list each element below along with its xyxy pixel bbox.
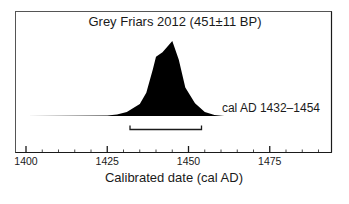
radiocarbon-calibration-chart: Grey Friars 2012 (451±11 BP) cal AD 1432… bbox=[0, 0, 349, 204]
tick-label: 1475 bbox=[258, 155, 282, 167]
range-annotation: cal AD 1432–1454 bbox=[222, 101, 320, 115]
chart-title: Grey Friars 2012 (451±11 BP) bbox=[88, 14, 261, 29]
x-axis-label: Calibrated date (cal AD) bbox=[105, 170, 243, 185]
x-axis-tick-labels: 1400142514501475 bbox=[14, 155, 281, 167]
range-bracket-line bbox=[130, 126, 202, 130]
range-bracket bbox=[130, 126, 202, 130]
tick-label: 1450 bbox=[177, 155, 201, 167]
tick-label: 1425 bbox=[96, 155, 120, 167]
tick-label: 1400 bbox=[14, 155, 38, 167]
x-axis-ticks bbox=[26, 146, 319, 153]
